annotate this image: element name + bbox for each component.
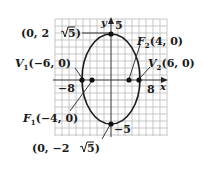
svg-text:5): 5) — [87, 142, 100, 155]
point-f1 — [89, 77, 94, 82]
svg-text:F1(−4, 0): F1(−4, 0) — [22, 112, 78, 127]
x-tick-neg8: −8 — [58, 82, 75, 95]
point-v1 — [79, 77, 84, 82]
y-axis-arrow-icon — [108, 17, 114, 24]
svg-text:V2(6, 0): V2(6, 0) — [148, 57, 195, 72]
label-f1: F1(−4, 0) — [22, 112, 78, 127]
label-v2: V2(6, 0) — [148, 57, 195, 72]
label-bottom-vertex: (0, −2 5) — [32, 142, 100, 155]
svg-text:5): 5) — [68, 27, 81, 40]
y-tick-5: 5 — [115, 19, 123, 32]
point-v2 — [136, 77, 141, 82]
point-top-vertex — [108, 31, 113, 36]
svg-text:(0, −2: (0, −2 — [32, 142, 69, 155]
svg-text:V1(−6, 0): V1(−6, 0) — [15, 57, 71, 72]
y-axis-label: y — [100, 17, 108, 28]
svg-text:(0, 2: (0, 2 — [21, 27, 49, 40]
label-v1: V1(−6, 0) — [15, 57, 71, 72]
ellipse-diagram: y 5 −5 −8 8 x (0, 2 5) V1(−6, 0) F1(−4, … — [0, 0, 205, 171]
x-axis-label: x — [159, 81, 167, 92]
point-bottom-vertex — [108, 121, 113, 126]
point-f2 — [126, 77, 131, 82]
x-tick-8: 8 — [147, 83, 155, 96]
y-tick-neg5: −5 — [114, 123, 131, 136]
label-f2: F2(4, 0) — [136, 35, 183, 50]
svg-text:F2(4, 0): F2(4, 0) — [136, 35, 183, 50]
label-top-vertex: (0, 2 5) — [21, 27, 81, 40]
